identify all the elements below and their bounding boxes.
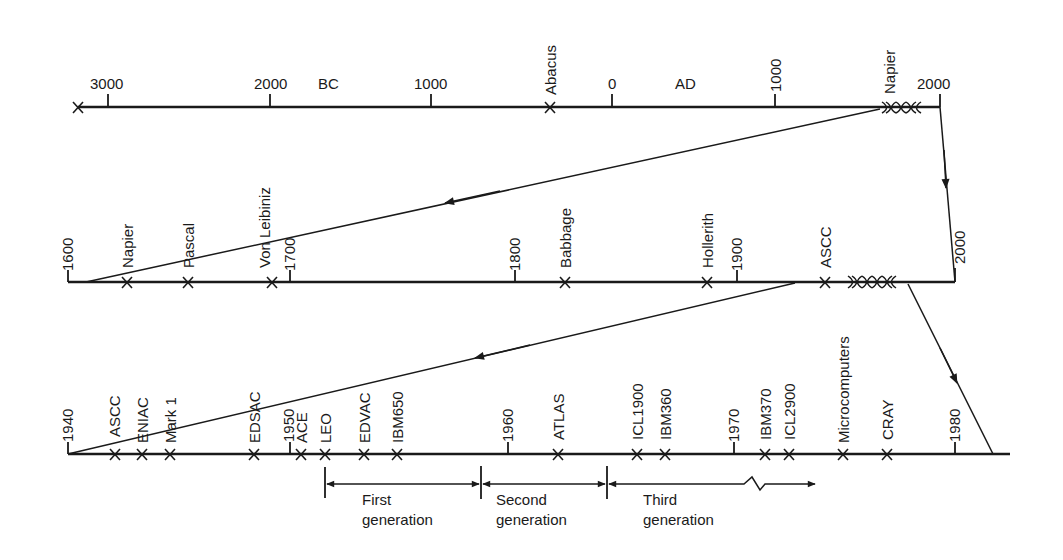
tick-label-1940: 1940	[59, 409, 76, 442]
tick-label-1980: 1980	[946, 409, 963, 442]
third-generation-arrow	[609, 477, 815, 490]
computing-history-timeline: 3000 2000 BC 1000 0 AD 1000 2000 Abacus …	[0, 0, 1063, 560]
tick-label-2000ad: 2000	[917, 75, 950, 92]
event-label-ascc-1944: ASCC	[106, 395, 123, 437]
tick-label-0: 0	[608, 75, 616, 92]
event-label-napier-top: Napier	[881, 50, 898, 94]
second-generation-label-line1: Second	[496, 491, 547, 508]
tick-label-2000-mid: 2000	[951, 231, 968, 264]
event-label-hollerith: Hollerith	[699, 213, 716, 268]
event-label-ibm360: IBM360	[657, 388, 674, 440]
event-label-ascc: ASCC	[817, 226, 834, 268]
event-label-eniac: ENIAC	[134, 397, 151, 443]
third-generation-label-line1: Third	[643, 491, 677, 508]
event-label-von-leibiniz: Von Leibiniz	[256, 187, 273, 268]
event-label-edsac: EDSAC	[246, 391, 263, 443]
era-label-ad: AD	[675, 75, 696, 92]
top-timeline: 3000 2000 BC 1000 0 AD 1000 2000 Abacus …	[73, 45, 950, 113]
first-generation-label-line2: generation	[362, 511, 433, 528]
tick-label-1800: 1800	[506, 238, 523, 271]
tick-label-2000bc: 2000	[254, 75, 287, 92]
tick-label-1000bc: 1000	[414, 75, 447, 92]
era-label-bc: BC	[318, 75, 339, 92]
zoom-arrow-4	[940, 348, 957, 383]
tick-label-1600: 1600	[59, 238, 76, 271]
zoom-arrow-3	[475, 345, 530, 358]
event-label-edvac: EDVAC	[356, 392, 373, 443]
generation-brackets: First generation Second generation Third…	[325, 466, 815, 528]
event-label-ibm370: IBM370	[757, 388, 774, 440]
first-generation-label-line1: First	[362, 491, 392, 508]
event-label-napier: Napier	[119, 224, 136, 268]
event-label-icl2900: ICL2900	[781, 383, 798, 440]
bottom-timeline: 1940 1950 1960 1970 1980 ASCC ENIAC Mark…	[59, 336, 1010, 460]
event-label-leo: LEO	[317, 413, 334, 443]
event-label-cray: CRAY	[879, 399, 896, 440]
tick-label-1960: 1960	[499, 409, 516, 442]
second-generation-label-line2: generation	[496, 511, 567, 528]
middle-timeline: 1600 1700 1800 1900 2000 Napier Pascal V…	[59, 187, 968, 288]
event-label-mark-1: Mark 1	[162, 397, 179, 443]
event-label-ace: ACE	[293, 412, 310, 443]
event-label-icl1900: ICL1900	[629, 383, 646, 440]
tick-label-1900: 1900	[728, 238, 745, 271]
zoom-arrow-1	[445, 191, 500, 203]
tick-label-1970: 1970	[725, 409, 742, 442]
tick-label-3000bc: 3000	[90, 75, 123, 92]
event-label-ibm650: IBM650	[389, 391, 406, 443]
tick-label-1000ad: 1000	[767, 59, 784, 92]
event-label-microcomputers: Microcomputers	[835, 336, 852, 443]
event-label-pascal: Pascal	[180, 223, 197, 268]
tick-label-1700: 1700	[281, 238, 298, 271]
event-label-atlas: ATLAS	[550, 394, 567, 440]
zoom-connector-left-1	[86, 109, 880, 282]
event-label-babbage: Babbage	[557, 208, 574, 268]
zoom-arrow-2	[944, 150, 946, 188]
third-generation-label-line2: generation	[643, 511, 714, 528]
event-label-abacus: Abacus	[542, 45, 559, 95]
